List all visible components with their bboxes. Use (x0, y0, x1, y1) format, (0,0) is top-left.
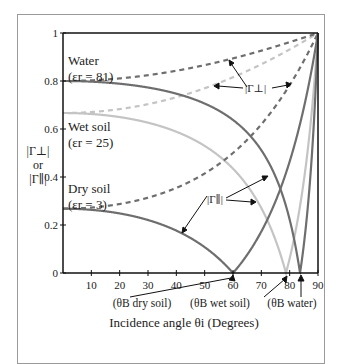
y-tick-label: 1 (53, 27, 59, 39)
brewster-water-label: (θB water) (267, 297, 316, 310)
brewster-wet-soil-label: (θB wet soil) (190, 297, 250, 310)
x-tick-label: 70 (256, 279, 268, 291)
label-dry-soil: Dry soil (68, 181, 111, 196)
label-wet-soil-eps: (εr = 25) (68, 135, 113, 150)
annotation-arrows (130, 60, 304, 297)
x-tick-label: 20 (114, 279, 126, 291)
label-water-eps: (εr = 81) (68, 69, 113, 84)
x-axis-label: Incidence angle θi (Degrees) (109, 315, 259, 330)
y-tick-label: 0 (53, 267, 59, 279)
label-wet-soil: Wet soil (68, 119, 111, 134)
annotation-gamma-par: |Γ∥| (207, 193, 223, 205)
y-axis-label-par: |Γ∥| (29, 172, 46, 186)
y-axis-label-or: or (33, 158, 43, 172)
label-dry-soil-eps: (εr = 3) (68, 197, 107, 212)
y-tick-label: 0.2 (44, 219, 58, 231)
y-axis-label-perp: |Γ⊥| (26, 144, 49, 158)
y-tick-label: 0.6 (44, 123, 58, 135)
y-tick-label: 0.8 (44, 75, 58, 87)
x-tick-label: 30 (143, 279, 155, 291)
annotation-gamma-perp: |Γ⊥| (245, 82, 266, 94)
brewster-dry-soil-label: (θB dry soil) (113, 297, 172, 310)
x-tick-label: 90 (313, 279, 325, 291)
label-water: Water (68, 53, 99, 68)
x-tick-label: 50 (199, 279, 211, 291)
x-tick-label: 10 (86, 279, 98, 291)
